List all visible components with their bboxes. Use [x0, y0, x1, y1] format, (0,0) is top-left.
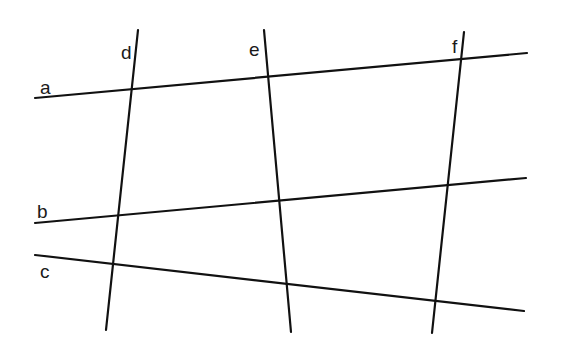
label-e: e: [249, 40, 260, 59]
label-f: f: [452, 37, 457, 56]
label-a: a: [40, 78, 51, 97]
label-c: c: [40, 262, 50, 281]
line-a: [35, 53, 527, 98]
label-d: d: [121, 43, 132, 62]
diagram-canvas: a b c d e f: [0, 0, 563, 351]
line-f: [432, 32, 464, 333]
lines-layer: [0, 0, 563, 351]
line-d: [106, 30, 138, 330]
label-b: b: [37, 202, 48, 221]
